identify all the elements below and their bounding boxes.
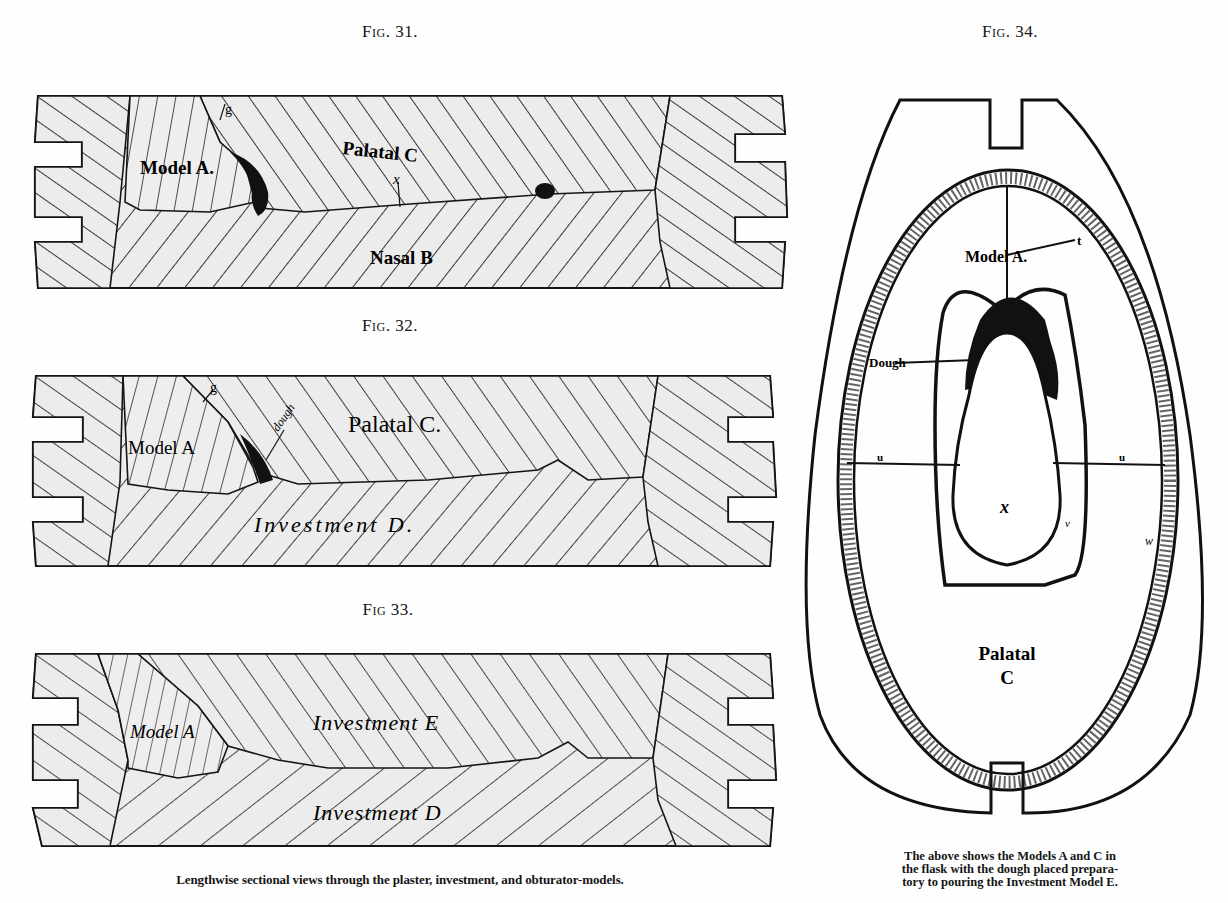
fig34-label: Fig. 34. xyxy=(950,22,1070,42)
fig32-lower-label: Investment D. xyxy=(253,512,415,537)
fig34-caption-line-3: tory to pouring the Investment Model E. xyxy=(820,876,1200,889)
fig34-palatal-label: Palatal xyxy=(979,643,1036,664)
fig34-center-label: x xyxy=(999,497,1009,517)
left-figures-caption: Lengthwise sectional views through the p… xyxy=(0,872,800,888)
fig31-section-diagram: g x Model A. Palatal C Nasal B xyxy=(30,92,790,292)
fig32-label: Fig. 32. xyxy=(330,316,450,336)
fig31-marker-g: g xyxy=(225,102,232,117)
fig32-model-label: Model A xyxy=(128,437,195,458)
fig34-marker-w: w xyxy=(1145,534,1153,548)
fig34-marker-u-right: u xyxy=(1119,451,1125,463)
fig31-lower-label: Nasal B xyxy=(370,247,433,268)
fig31-label: Fig. 31. xyxy=(330,22,450,42)
fig34-caption: The above shows the Models A and C in th… xyxy=(820,850,1200,889)
fig33-upper-label: Investment E xyxy=(312,710,439,735)
fig33-section-diagram: Model A Investment E Investment D xyxy=(28,650,790,850)
fig34-marker-v: v xyxy=(1065,517,1070,529)
fig33-label: Fig 33. xyxy=(328,600,448,620)
fig31-model-label: Model A. xyxy=(140,157,214,178)
fig33-model-label: Model A xyxy=(129,721,195,742)
fig31-marker-x: x xyxy=(392,171,400,187)
fig34-palatal-letter: C xyxy=(1000,667,1014,688)
fig33-lower-label: Investment D xyxy=(312,800,442,825)
fig34-marker-u-left: u xyxy=(877,451,883,463)
fig32-marker-g: g xyxy=(210,380,217,395)
fig34-dough-label: Dough xyxy=(869,355,907,370)
fig34-marker-t: t xyxy=(1077,233,1082,248)
document-page: Fig. 31. Fig. 32. Fig 33. Fig. 34. g x M… xyxy=(0,0,1228,903)
fig32-section-diagram: g dough Model A Palatal C. Investment D. xyxy=(28,372,790,570)
fig32-upper-label: Palatal C. xyxy=(348,411,441,437)
fig34-flask-diagram: Model A. t Dough u u x v w Palatal C xyxy=(795,95,1225,835)
fig34-model-label: Model A. xyxy=(965,248,1027,265)
